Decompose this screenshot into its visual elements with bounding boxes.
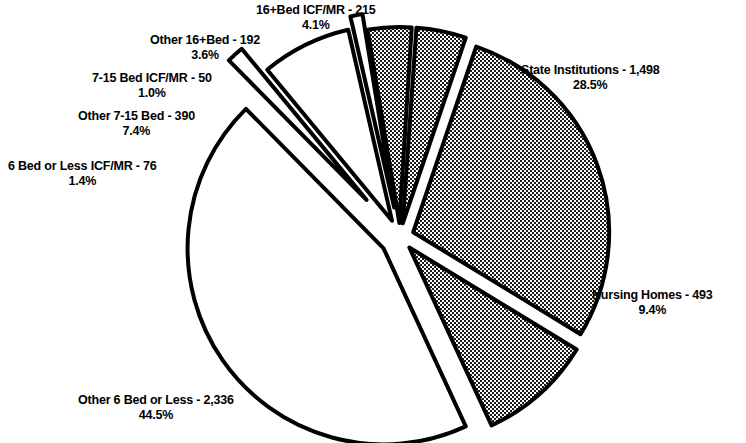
slice-label-state-institutions: State Institutions - 1,498 28.5% [521, 63, 660, 92]
slice-label-name: Other 16+Bed - 192 [150, 33, 260, 48]
slice-label-nursing-homes: Nursing Homes - 493 9.4% [592, 288, 713, 317]
slice-label-7-15-bed-icfmr: 7-15 Bed ICF/MR - 50 1.0% [92, 71, 212, 100]
slice-label-other-16-bed: Other 16+Bed - 192 3.6% [150, 33, 260, 62]
slice-label-name: 6 Bed or Less ICF/MR - 76 [8, 159, 157, 174]
slice-label-name: 16+Bed ICF/MR - 215 [256, 3, 376, 18]
slice-label-name: Other 7-15 Bed - 390 [78, 109, 195, 124]
slice-label-percent: 3.6% [150, 48, 260, 63]
slice-label-percent: 4.1% [256, 18, 376, 33]
slice-label-percent: 1.4% [8, 174, 157, 189]
slice-label-other-6-bed-or-less: Other 6 Bed or Less - 2,336 44.5% [78, 393, 234, 422]
slice-label-name: Other 6 Bed or Less - 2,336 [78, 393, 234, 408]
slice-label-other-7-15-bed: Other 7-15 Bed - 390 7.4% [78, 109, 195, 138]
pie-chart-page: 16+Bed ICF/MR - 215 4.1% Other 16+Bed - … [0, 0, 746, 443]
slice-label-percent: 44.5% [78, 408, 234, 423]
slice-label-16-bed-icfmr: 16+Bed ICF/MR - 215 4.1% [256, 3, 376, 32]
slice-label-name: State Institutions - 1,498 [521, 63, 660, 78]
slice-label-6-bed-or-less-icfmr: 6 Bed or Less ICF/MR - 76 1.4% [8, 159, 157, 188]
slice-label-percent: 1.0% [92, 86, 212, 101]
slice-label-percent: 9.4% [592, 303, 713, 318]
slice-label-percent: 28.5% [521, 78, 660, 93]
slice-label-name: Nursing Homes - 493 [592, 288, 713, 303]
slice-label-name: 7-15 Bed ICF/MR - 50 [92, 71, 212, 86]
slice-label-percent: 7.4% [78, 124, 195, 139]
